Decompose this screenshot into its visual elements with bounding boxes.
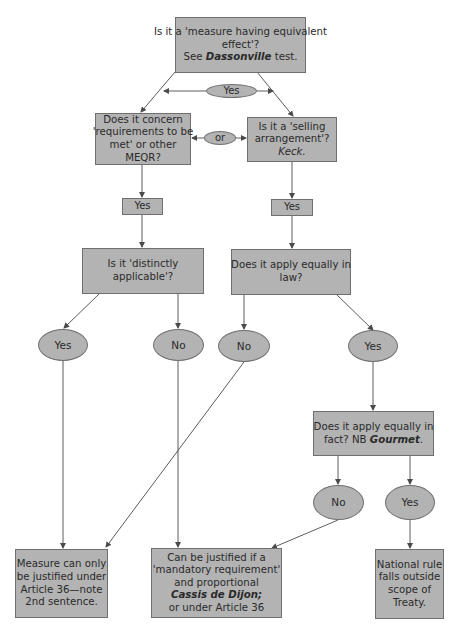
fact-line2: fact? NB Gourmet. <box>324 434 423 447</box>
fact-no-label: No <box>331 496 345 509</box>
distinct-no-ellipse: No <box>153 329 204 361</box>
yes-split-pill: Yes <box>206 84 257 98</box>
equal-in-fact-node: Does it apply equally in fact? NB Gourme… <box>313 411 434 456</box>
right-yes-label: Yes <box>284 201 300 214</box>
fact-line1: Does it apply equally in <box>314 421 434 434</box>
law-no-ellipse: No <box>218 330 270 362</box>
fact-no-ellipse: No <box>313 485 364 520</box>
case-gourmet: Gourmet <box>370 434 420 445</box>
yes-split-label: Yes <box>223 85 239 98</box>
outcome-article36-node: Measure can only be justified under Arti… <box>15 549 108 618</box>
outcome-cassis-node: Can be justified if a 'mandatory require… <box>151 548 282 618</box>
right-yes-node: Yes <box>271 199 313 216</box>
fact-nb: fact? NB <box>324 434 370 445</box>
outcome2-line5: or under Article 36 <box>169 602 265 615</box>
or-label: or <box>215 132 225 145</box>
distinctly-line1: Is it 'distinctly <box>108 258 179 271</box>
law-line1: Does it apply equally in <box>231 259 351 272</box>
right-question-line2: arrangement'? <box>255 133 330 146</box>
law-no-label: No <box>237 340 251 353</box>
top-question-line1: Is it a 'measure having equivalent <box>154 26 327 39</box>
law-line2: law? <box>280 272 303 285</box>
outcome1-line3: Article 36—note <box>20 584 102 597</box>
left-question-line4: MEQR? <box>125 152 161 165</box>
case-keck: Keck. <box>278 146 305 159</box>
right-question-node: Is it a 'selling arrangement'? Keck. <box>247 117 337 162</box>
outcome2-line2: 'mandatory requirement' <box>153 564 280 577</box>
top-question-see: See <box>183 51 205 62</box>
top-question-line2: effect'? <box>222 39 259 52</box>
flowchart-canvas: Is it a 'measure having equivalent effec… <box>0 0 463 632</box>
left-yes-label: Yes <box>134 200 150 213</box>
outcome3-line3: scope of <box>388 584 431 597</box>
distinct-yes-ellipse: Yes <box>38 329 88 361</box>
outcome2-line1: Can be justified if a <box>167 552 266 565</box>
outcome3-line1: National rule <box>377 559 442 572</box>
outcome3-line2: falls outside <box>379 571 441 584</box>
distinct-no-label: No <box>171 339 185 352</box>
law-yes-label: Yes <box>365 340 382 353</box>
left-question-node: Does it concern 'requirements to be met'… <box>95 113 191 165</box>
fact-period: . <box>420 434 423 445</box>
case-cassis-de-dijon: Cassis de Dijon; <box>171 589 262 602</box>
left-question-line1: Does it concern <box>103 114 183 127</box>
distinctly-applicable-node: Is it 'distinctly applicable'? <box>82 248 204 294</box>
fact-yes-ellipse: Yes <box>385 485 435 520</box>
outcome2-line3: and proportional <box>174 577 259 590</box>
left-yes-node: Yes <box>122 198 163 215</box>
outcome1-line4: 2nd sentence. <box>25 596 98 609</box>
top-question-node: Is it a 'measure having equivalent effec… <box>175 17 306 73</box>
equal-in-law-node: Does it apply equally in law? <box>231 249 351 295</box>
right-question-line1: Is it a 'selling <box>259 121 326 134</box>
distinctly-line2: applicable'? <box>113 271 173 284</box>
top-question-test: test. <box>271 51 297 62</box>
or-connector-pill: or <box>204 131 236 145</box>
outcome-outside-scope-node: National rule falls outside scope of Tre… <box>375 549 444 619</box>
left-question-line3: met' or other <box>109 139 176 152</box>
fact-yes-label: Yes <box>402 496 419 509</box>
distinct-yes-label: Yes <box>55 339 72 352</box>
outcome1-line2: be justified under <box>17 571 107 584</box>
outcome3-line4: Treaty. <box>393 597 426 610</box>
top-question-line3: See Dassonville test. <box>183 51 297 64</box>
law-yes-ellipse: Yes <box>348 330 398 362</box>
outcome1-line1: Measure can only <box>17 558 107 571</box>
case-dassonville: Dassonville <box>206 51 272 62</box>
left-question-line2: 'requirements to be <box>93 126 193 139</box>
